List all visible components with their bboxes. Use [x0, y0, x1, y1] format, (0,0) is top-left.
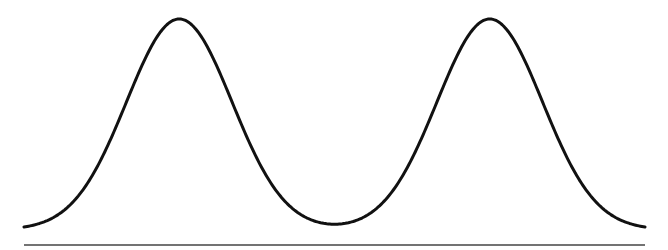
chart-canvas [0, 0, 668, 250]
distribution-curve [24, 19, 645, 227]
bimodal-distribution-chart [0, 0, 668, 250]
